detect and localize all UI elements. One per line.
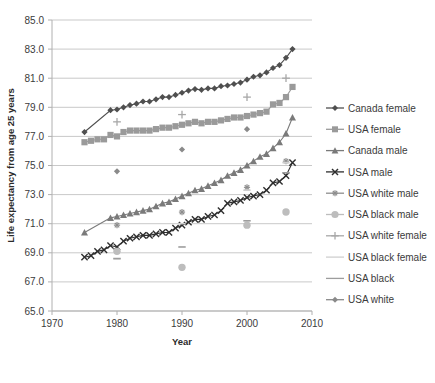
chart-canvas: 65.067.069.071.073.075.077.079.081.083.0…: [0, 0, 435, 383]
legend-item-9[interactable]: USA white: [326, 294, 395, 305]
data-point-diamond: [263, 69, 269, 75]
data-point-square: [332, 126, 338, 132]
legend-item-4[interactable]: USA white male: [326, 188, 419, 199]
data-point-diamond: [332, 297, 338, 303]
data-point-star: [179, 209, 185, 215]
data-point-cross: [218, 208, 224, 214]
data-point-circle: [282, 208, 289, 215]
data-point-plus: [282, 74, 290, 82]
data-point-cross: [120, 238, 126, 244]
data-point-triangle: [237, 166, 244, 173]
data-point-square: [250, 111, 256, 117]
legend-item-5[interactable]: USA black male: [326, 209, 419, 220]
data-point-plus: [178, 111, 186, 119]
data-point-cross: [263, 187, 269, 193]
y-tick-label: 65.0: [25, 306, 45, 317]
data-point-square: [107, 132, 113, 138]
data-point-square: [289, 84, 295, 90]
data-point-triangle: [211, 179, 218, 186]
data-point-square: [166, 125, 172, 131]
legend-label: USA white male: [348, 188, 419, 199]
x-axis-title: Year: [172, 336, 192, 347]
data-point-circle: [243, 221, 250, 228]
legend-label: Canada female: [348, 103, 416, 114]
data-point-diamond: [133, 101, 139, 107]
data-point-square: [140, 127, 146, 133]
data-point-square: [81, 139, 87, 145]
y-axis-title: Life expectancy from age 25 years: [5, 88, 16, 243]
data-point-square: [237, 114, 243, 120]
legend-item-0[interactable]: Canada female: [326, 103, 416, 114]
data-point-diamond: [231, 81, 237, 87]
y-tick-label: 79.0: [25, 102, 45, 113]
data-point-square: [88, 138, 94, 144]
data-point-square: [192, 119, 198, 125]
data-point-triangle: [231, 169, 238, 176]
legend-item-8[interactable]: USA black: [326, 273, 395, 284]
legend-item-3[interactable]: USA male: [326, 167, 393, 178]
data-point-square: [198, 120, 204, 126]
y-tick-label: 83.0: [25, 44, 45, 55]
data-point-diamond: [140, 98, 146, 104]
legend-item-6[interactable]: USA white female: [326, 230, 427, 241]
data-point-plus: [331, 232, 339, 240]
data-point-square: [283, 94, 289, 100]
data-point-diamond: [257, 72, 263, 78]
data-point-triangle: [224, 172, 231, 179]
series-line: [85, 163, 293, 258]
data-point-diamond: [192, 86, 198, 92]
data-point-square: [101, 136, 107, 142]
y-tick-label: 73.0: [25, 189, 45, 200]
data-point-square: [218, 117, 224, 123]
data-point-square: [114, 133, 120, 139]
data-point-diamond: [244, 77, 250, 83]
x-tick-label: 2010: [301, 318, 324, 329]
data-point-square: [185, 120, 191, 126]
y-tick-label: 75.0: [25, 160, 45, 171]
data-point-triangle: [283, 130, 290, 137]
y-tick-label: 81.0: [25, 73, 45, 84]
data-point-diamond: [114, 168, 120, 174]
data-point-star: [332, 190, 338, 196]
data-point-plus: [113, 118, 121, 126]
legend-label: USA male: [348, 167, 393, 178]
data-point-diamond: [211, 85, 217, 91]
data-point-triangle: [153, 203, 160, 210]
data-point-diamond: [250, 74, 256, 80]
data-point-diamond: [224, 82, 230, 88]
y-tick-label: 77.0: [25, 131, 45, 142]
data-point-square: [133, 127, 139, 133]
legend-item-1[interactable]: USA female: [326, 124, 401, 135]
data-point-square: [159, 125, 165, 131]
data-point-square: [224, 116, 230, 122]
data-point-cross: [185, 219, 191, 225]
data-point-square: [153, 126, 159, 132]
data-point-circle: [178, 264, 185, 271]
data-point-square: [211, 119, 217, 125]
data-point-triangle: [218, 177, 225, 184]
data-point-plus: [243, 93, 251, 101]
life-expectancy-chart: 65.067.069.071.073.075.077.079.081.083.0…: [0, 0, 435, 383]
data-point-diamond: [332, 105, 338, 111]
y-tick-label: 69.0: [25, 247, 45, 258]
legend-label: USA female: [348, 124, 401, 135]
y-tick-label: 67.0: [25, 276, 45, 287]
data-point-square: [172, 123, 178, 129]
data-point-diamond: [198, 87, 204, 93]
data-point-diamond: [166, 94, 172, 100]
data-point-triangle: [257, 153, 264, 160]
data-point-star: [114, 222, 120, 228]
legend-label: USA black: [348, 273, 395, 284]
legend-label: USA black male: [348, 209, 419, 220]
data-point-triangle: [185, 190, 192, 197]
y-tick-label: 85.0: [25, 15, 45, 26]
data-point-diamond: [270, 65, 276, 71]
legend-label: USA white: [348, 294, 395, 305]
legend-item-2[interactable]: Canada male: [326, 145, 408, 156]
data-point-cross: [289, 159, 295, 165]
data-point-triangle: [146, 206, 153, 213]
legend-label: USA white female: [348, 230, 427, 241]
legend-item-7[interactable]: USA black female: [326, 252, 427, 263]
data-point-square: [231, 114, 237, 120]
data-point-diamond: [159, 94, 165, 100]
